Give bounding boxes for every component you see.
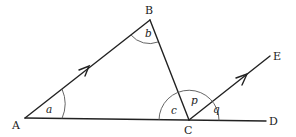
- point-label-d: D: [269, 115, 278, 128]
- angle-arc-cpq: [159, 90, 219, 120]
- point-label-b: B: [145, 4, 153, 17]
- segment-ce: [189, 56, 270, 120]
- angle-label-c: c: [171, 104, 177, 116]
- angle-label-q: q: [213, 103, 220, 115]
- point-label-c: C: [184, 124, 192, 137]
- angle-label-a: a: [46, 103, 52, 115]
- point-label-a: A: [11, 119, 21, 132]
- segment-ad: [25, 118, 266, 121]
- angle-label-p: p: [191, 94, 198, 106]
- angle-arc-a: [62, 89, 65, 119]
- angle-label-b: b: [145, 27, 152, 39]
- point-label-e: E: [273, 50, 281, 63]
- geometry-diagram: A B C D E a b c p q: [0, 0, 296, 137]
- segment-bc: [150, 20, 189, 120]
